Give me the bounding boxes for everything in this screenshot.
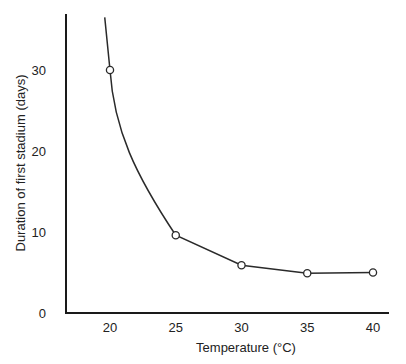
data-point-marker [369,269,376,276]
data-markers [106,66,376,277]
chart-container: 0102030 2025303540 Duration of first sta… [0,0,406,364]
data-point-marker [172,232,179,239]
x-tick-labels: 2025303540 [103,320,380,335]
data-point-marker [238,262,245,269]
y-tick-labels: 0102030 [32,63,46,321]
x-tick-label: 25 [169,320,183,335]
data-point-marker [304,270,311,277]
y-tick-label: 10 [32,225,46,240]
x-tick-label: 40 [366,320,380,335]
x-tick-label: 35 [300,320,314,335]
y-tick-label: 20 [32,144,46,159]
x-tick-label: 20 [103,320,117,335]
y-tick-label: 0 [39,306,46,321]
chart-svg: 0102030 2025303540 Duration of first sta… [0,0,406,364]
y-axis-label: Duration of first stadium (days) [13,74,28,251]
data-point-marker [106,66,113,73]
data-line [105,17,373,273]
x-axis-label: Temperature (°C) [196,340,296,355]
y-tick-label: 30 [32,63,46,78]
x-tick-label: 30 [234,320,248,335]
